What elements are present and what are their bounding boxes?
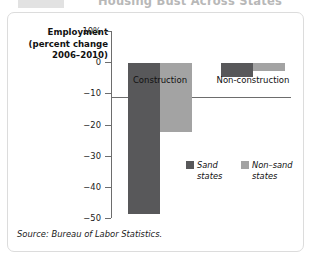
- legend-swatch-icon-non-sand: [241, 161, 249, 169]
- banner-tab-block: [18, 0, 64, 8]
- bar-construction-sand-states: [128, 63, 160, 214]
- y-tick-label: 10%: [41, 27, 101, 35]
- legend-label-non-sand-line-2: states: [252, 171, 293, 182]
- y-tick-label: 0: [41, 58, 101, 66]
- y-axis-line: [111, 31, 112, 218]
- y-tick-label: −30: [41, 152, 101, 160]
- bar-non-construction-non-sand-states: [253, 63, 285, 71]
- y-tick-label: −20: [41, 121, 101, 129]
- legend-swatch-icon-sand: [186, 161, 194, 169]
- legend-label-sand-states: Sand states: [197, 160, 222, 181]
- legend-label-sand-line-1: Sand: [197, 160, 222, 171]
- y-tick-mark: [105, 156, 111, 157]
- bar-chart-plot: 10%0−10−20−30−40−50 ConstructionNon-cons…: [8, 13, 305, 253]
- top-banner: Housing Bust Across States: [0, 0, 314, 11]
- legend-label-non-sand-line-1: Non–sand: [252, 160, 293, 171]
- y-tick-mark: [105, 125, 111, 126]
- y-tick-mark: [105, 187, 111, 188]
- y-tick-mark: [105, 218, 111, 219]
- y-tick-label: −10: [41, 89, 101, 97]
- legend-label-non-sand-states: Non–sand states: [252, 160, 293, 181]
- bar-construction-non-sand-states: [160, 63, 192, 132]
- category-label-non-construction: Non-construction: [193, 75, 313, 85]
- y-tick-label: −40: [41, 183, 101, 191]
- source-note: Source: Bureau of Labor Statistics.: [17, 229, 162, 239]
- y-tick-mark: [105, 62, 111, 63]
- y-tick-mark: [105, 31, 111, 32]
- y-tick-mark: [105, 93, 111, 94]
- figure-panel: Employment (percent change 2006–2010) 10…: [7, 12, 304, 252]
- figure-title: Housing Bust Across States: [66, 0, 314, 11]
- y-tick-label: −50: [41, 214, 101, 222]
- legend-label-sand-line-2: states: [197, 171, 222, 182]
